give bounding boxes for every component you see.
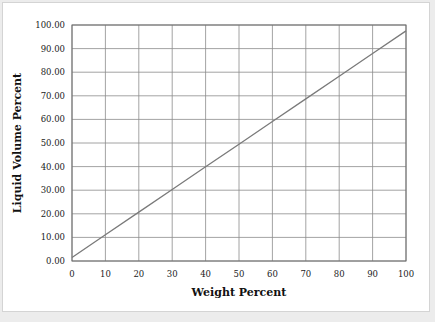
x-tick-label: 50: [234, 269, 245, 279]
x-tick-label: 0: [69, 269, 74, 279]
y-tick-label: 50.00: [41, 138, 65, 148]
y-tick-label: 30.00: [41, 185, 65, 195]
x-axis-title: Weight Percent: [191, 286, 288, 299]
y-tick-label: 90.00: [41, 44, 65, 54]
x-tick-label: 60: [267, 269, 278, 279]
y-tick-label: 0.00: [46, 256, 65, 266]
x-tick-label: 40: [200, 269, 211, 279]
y-tick-label: 20.00: [41, 209, 65, 219]
x-tick-label: 10: [100, 269, 111, 279]
y-tick-label: 70.00: [41, 91, 65, 101]
x-tick-label: 30: [167, 269, 178, 279]
y-axis-ticks: 0.0010.0020.0030.0040.0050.0060.0070.008…: [35, 20, 65, 266]
line-chart: 0102030405060708090100 0.0010.0020.0030.…: [0, 0, 435, 322]
x-tick-label: 90: [367, 269, 378, 279]
y-tick-label: 100.00: [35, 20, 65, 30]
y-tick-label: 10.00: [41, 232, 65, 242]
x-tick-label: 70: [300, 269, 311, 279]
x-tick-label: 100: [398, 269, 414, 279]
y-tick-label: 80.00: [41, 67, 65, 77]
y-tick-label: 60.00: [41, 114, 65, 124]
x-axis-ticks: 0102030405060708090100: [69, 269, 414, 279]
x-tick-label: 80: [334, 269, 345, 279]
y-tick-label: 40.00: [41, 162, 65, 172]
x-tick-label: 20: [133, 269, 144, 279]
grid-lines: [72, 25, 406, 261]
y-axis-title: Liquid Volume Percent: [11, 72, 24, 213]
